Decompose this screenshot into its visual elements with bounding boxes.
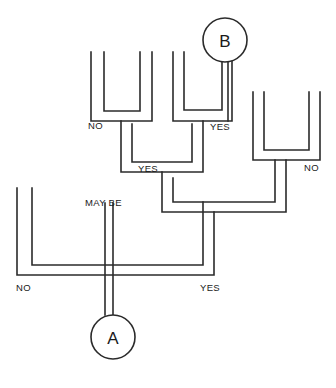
branch-label-may-be: MAY BE [85, 197, 122, 208]
maybe-stem-group [105, 203, 113, 315]
bracket-group-top-right [253, 92, 320, 160]
node-b[interactable]: B [203, 18, 247, 62]
merge-group-level3 [162, 160, 286, 212]
node-b-label: B [219, 32, 230, 51]
merge-level3-outer-path [162, 160, 286, 212]
node-a-label: A [107, 329, 119, 348]
merge-level2-inner-path [132, 124, 192, 162]
merge-level2-outer-path [121, 121, 203, 172]
bracket-group-top-left [91, 52, 152, 121]
branch-label-no-bottom: NO [16, 282, 31, 293]
branch-label-yes-bottom: YES [200, 282, 220, 293]
merge-level3-inner-path [173, 160, 275, 202]
merge-group-level2 [121, 121, 203, 172]
node-a[interactable]: A [91, 315, 135, 359]
bracket-inner-right-path [264, 92, 309, 150]
bracket-inner-left-path [104, 52, 140, 111]
tree-svg-canvas: B A NO YES YES NO MAY BE NO YES [0, 0, 336, 388]
branch-label-yes-mid: YES [138, 163, 158, 174]
branch-label-yes-top-right: YES [210, 121, 230, 132]
branch-label-no-mid-right: NO [304, 162, 319, 173]
branch-label-no-top-left: NO [88, 120, 103, 131]
decision-tree-diagram: B A NO YES YES NO MAY BE NO YES [0, 0, 336, 388]
